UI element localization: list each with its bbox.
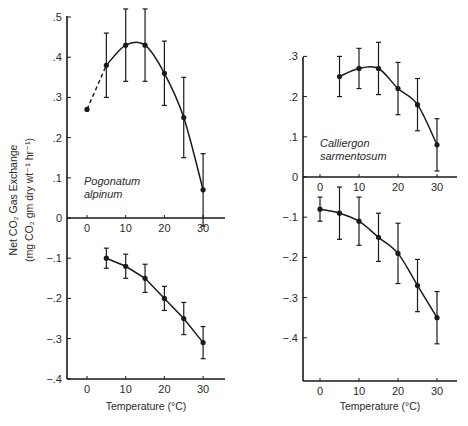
data-point [434, 142, 439, 147]
data-point [356, 219, 361, 224]
y-tick-label: −.2 [282, 251, 298, 263]
series-line [106, 258, 203, 342]
series-line [340, 67, 438, 145]
x-tick-label: 10 [353, 181, 365, 193]
data-point [84, 107, 89, 112]
x-tick-label: 20 [158, 222, 170, 234]
x-tick-label: 10 [120, 383, 132, 395]
species-label-left-2: alpinum [84, 188, 123, 200]
x-tick-label: 30 [197, 383, 209, 395]
data-point [337, 211, 342, 216]
y-tick-label: −.4 [46, 373, 62, 385]
x-tick-label: 10 [120, 222, 132, 234]
x-tick-label: 0 [317, 181, 323, 193]
y-tick-label: 0 [292, 171, 298, 183]
y-tick-label: −.4 [282, 332, 298, 344]
data-point [395, 86, 400, 91]
data-point [104, 63, 109, 68]
x-tick-label: 0 [84, 383, 90, 395]
x-tick-label: 20 [392, 385, 404, 397]
y-tick-label: .2 [53, 132, 62, 144]
y-axis-title-line2: (mg CO₂ gm dry wt⁻¹ hr⁻¹) [23, 138, 35, 262]
data-point [376, 66, 381, 71]
data-point [337, 74, 342, 79]
y-tick-label: 0 [56, 212, 62, 224]
data-point [142, 276, 147, 281]
y-tick-label: −.2 [46, 292, 62, 304]
data-point [376, 235, 381, 240]
y-tick-label: −.3 [282, 292, 298, 304]
y-tick-label: .1 [289, 131, 298, 143]
extrapolated-segment [87, 65, 106, 109]
data-point [162, 296, 167, 301]
y-tick-label: .1 [53, 172, 62, 184]
gas-exchange-chart: Net CO₂ Gas Exchange (mg CO₂ gm dry wt⁻¹… [0, 0, 468, 426]
data-point [317, 207, 322, 212]
species-label-right-2: sarmentosum [320, 150, 387, 162]
x-tick-label: 0 [317, 385, 323, 397]
y-tick-label: .2 [289, 91, 298, 103]
x-tick-label: 30 [431, 385, 443, 397]
panel-calliergon: .3.2.10−.1−.2−.3−.400101020203030 [282, 42, 457, 397]
y-tick-label: −.1 [46, 252, 62, 264]
data-point [415, 283, 420, 288]
data-point [434, 315, 439, 320]
x-axis-title-left: Temperature (°C) [106, 400, 187, 412]
data-point [356, 66, 361, 71]
data-point [142, 43, 147, 48]
y-tick-label: .3 [53, 91, 62, 103]
panel-pogonatum: .5.4.3.2.10−.1−.2−.3−.400101020203030 [46, 9, 225, 395]
data-point [162, 71, 167, 76]
data-point [181, 316, 186, 321]
x-tick-label: 30 [431, 181, 443, 193]
y-tick-label: −.3 [46, 333, 62, 345]
x-tick-label: 20 [158, 383, 170, 395]
data-point [415, 102, 420, 107]
species-label-left-1: Pogonatum [84, 175, 140, 187]
y-tick-label: .5 [53, 11, 62, 23]
x-tick-label: 0 [84, 222, 90, 234]
y-axis-title-line1: Net CO₂ Gas Exchange [7, 144, 19, 255]
data-point [201, 187, 206, 192]
y-tick-label: −.1 [282, 211, 298, 223]
y-tick-label: .3 [289, 50, 298, 62]
y-tick-label: .4 [53, 51, 62, 63]
series-line [106, 42, 203, 190]
data-point [201, 340, 206, 345]
data-point [123, 43, 128, 48]
data-point [181, 115, 186, 120]
species-label-right-1: Calliergon [320, 137, 370, 149]
x-axis-title-right: Temperature (°C) [340, 400, 421, 412]
x-tick-label: 20 [392, 181, 404, 193]
data-point [395, 251, 400, 256]
x-tick-label: 10 [353, 385, 365, 397]
data-point [123, 264, 128, 269]
data-point [104, 256, 109, 261]
